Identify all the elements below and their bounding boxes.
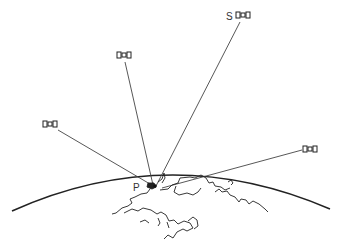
gps-diagram [0,0,342,241]
point-p-marker [153,184,157,188]
signal-lines [58,22,302,188]
point-p-label: P [133,183,140,193]
satellite-icon [43,121,57,127]
signal-line-s [156,22,240,186]
satellite-s-label: S [226,12,233,22]
satellite-icon [303,146,317,152]
signal-line-upper-left [125,62,153,185]
satellite-icon [117,52,131,58]
earth-horizon-arc [12,175,330,211]
signal-line-left [58,130,150,184]
satellite-icon [236,12,250,18]
